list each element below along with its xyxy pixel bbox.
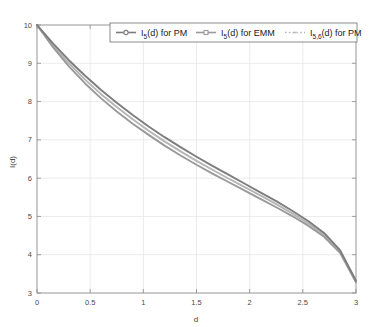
x-axis-tick-labels: 00.511.522.53 — [35, 298, 358, 307]
y-tick-label: 7 — [28, 135, 32, 144]
y-tick-label: 8 — [28, 97, 32, 106]
y-tick-label: 3 — [28, 289, 32, 298]
x-tick-label: 3 — [354, 298, 358, 307]
legend-label: I5(d) for PM — [141, 28, 187, 40]
legend-marker-square-icon — [204, 31, 208, 35]
x-axis-title: d — [194, 315, 198, 324]
y-axis-tick-labels: 345678910 — [24, 21, 32, 298]
y-axis-title: I(d) — [8, 156, 17, 168]
x-tick-label: 1.5 — [191, 298, 201, 307]
x-tick-label: 0 — [35, 298, 39, 307]
legend-marker-circle-icon — [124, 30, 128, 34]
chart-plot: 00.511.522.53 345678910 I5(d) for PMI5(d… — [0, 0, 379, 327]
x-tick-label: 0.5 — [85, 298, 95, 307]
y-tick-label: 10 — [24, 21, 32, 30]
legend-marker-dot-icon — [294, 32, 296, 34]
grid-lines — [37, 25, 356, 293]
figure-canvas: 00.511.522.53 345678910 I5(d) for PMI5(d… — [0, 0, 379, 327]
x-tick-label: 1 — [141, 298, 145, 307]
legend-label: I5(d) for EMM — [221, 28, 275, 40]
y-tick-label: 9 — [28, 59, 32, 68]
chart-legend[interactable]: I5(d) for PMI5(d) for EMMI5,6(d) for PM — [110, 23, 362, 42]
x-tick-label: 2.5 — [298, 298, 308, 307]
x-tick-label: 2 — [248, 298, 252, 307]
y-tick-label: 5 — [28, 212, 32, 221]
y-tick-label: 4 — [28, 250, 32, 259]
y-tick-label: 6 — [28, 174, 32, 183]
